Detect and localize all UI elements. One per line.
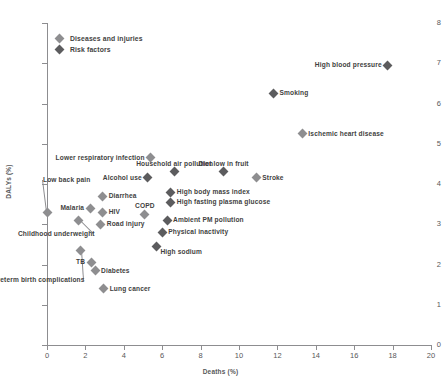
data-point-label: High fasting plasma glucose (177, 198, 270, 206)
data-point-label: Childhood underweight (18, 230, 95, 238)
data-point-marker[interactable] (170, 167, 180, 177)
x-tick (354, 345, 355, 350)
x-tick-label: 12 (264, 352, 290, 360)
data-point-marker[interactable] (269, 88, 279, 98)
x-tick (277, 345, 278, 350)
data-point-label: Diet low in fruit (199, 160, 249, 168)
y-tick-label: 8 (405, 19, 441, 27)
data-point-label: High sodium (160, 248, 202, 256)
legend-label: Risk factors (70, 46, 111, 53)
y-tick (42, 23, 47, 24)
data-point-label: HIV (109, 208, 120, 216)
legend-label: Diseases and injuries (70, 35, 143, 42)
chart-legend: Diseases and injuriesRisk factors (56, 33, 143, 55)
data-point-marker[interactable] (42, 207, 52, 217)
data-point-label: Preterm birth complications (0, 276, 85, 284)
y-axis-title: DALYs (%) (5, 152, 12, 212)
x-tick (431, 345, 432, 350)
data-point-marker[interactable] (166, 187, 176, 197)
legend-item[interactable]: Diseases and injuries (56, 33, 143, 44)
data-point-marker[interactable] (98, 191, 108, 201)
data-point-marker[interactable] (383, 60, 393, 70)
y-tick (42, 224, 47, 225)
x-tick (201, 345, 202, 350)
data-point-label: Alcohol use (103, 174, 142, 182)
data-point-marker[interactable] (251, 173, 261, 183)
data-point-marker[interactable] (166, 197, 176, 207)
y-tick-label: 0 (405, 341, 441, 349)
x-tick-label: 20 (418, 352, 444, 360)
data-point-label: Diabetes (101, 267, 130, 275)
data-point-marker[interactable] (99, 284, 109, 294)
y-tick-label: 2 (405, 261, 441, 269)
data-point-label: Physical inactivity (168, 228, 228, 236)
legend-marker-icon (55, 34, 65, 44)
data-point-label: TB (76, 258, 85, 266)
x-tick-label: 2 (72, 352, 98, 360)
data-point-marker[interactable] (98, 207, 108, 217)
x-tick (393, 345, 394, 350)
data-point-label: Low back pain (43, 176, 90, 184)
data-point-marker[interactable] (140, 209, 150, 219)
data-point-marker[interactable] (143, 173, 153, 183)
legend-marker-icon (55, 45, 65, 55)
data-point-marker[interactable] (85, 203, 95, 213)
y-tick-label: 7 (405, 59, 441, 67)
data-point-label: Diarrhea (109, 192, 137, 200)
y-tick-label: 5 (405, 140, 441, 148)
x-tick-label: 10 (226, 352, 252, 360)
x-tick (85, 345, 86, 350)
x-tick-label: 0 (34, 352, 60, 360)
data-point-label: Stroke (262, 174, 283, 182)
y-tick (42, 265, 47, 266)
data-point-label: High blood pressure (315, 61, 382, 69)
data-point-marker[interactable] (297, 129, 307, 139)
y-tick-label: 3 (405, 220, 441, 228)
data-point-label: Ambient PM pollution (173, 216, 244, 224)
x-tick (316, 345, 317, 350)
x-tick-label: 14 (303, 352, 329, 360)
x-tick (162, 345, 163, 350)
data-point-marker[interactable] (96, 219, 106, 229)
x-tick-label: 4 (111, 352, 137, 360)
legend-item[interactable]: Risk factors (56, 44, 143, 55)
data-point-marker[interactable] (157, 227, 167, 237)
data-point-label: Road injury (107, 220, 145, 228)
data-point-marker[interactable] (162, 215, 172, 225)
x-tick-label: 18 (380, 352, 406, 360)
y-tick (42, 305, 47, 306)
y-tick (42, 104, 47, 105)
y-tick-label: 4 (405, 180, 441, 188)
y-tick-label: 6 (405, 100, 441, 108)
data-point-label: High body mass index (177, 188, 250, 196)
data-point-label: Malaria (60, 204, 84, 212)
x-axis-title: Deaths (%) (0, 368, 441, 375)
x-tick-label: 16 (341, 352, 367, 360)
x-tick-label: 8 (188, 352, 214, 360)
x-tick (239, 345, 240, 350)
data-point-label: Lung cancer (110, 285, 151, 293)
y-tick (42, 63, 47, 64)
x-tick (124, 345, 125, 350)
data-point-label: Smoking (280, 89, 309, 97)
data-point-label: Ischemic heart disease (308, 130, 384, 138)
data-point-label: COPD (135, 202, 155, 210)
y-tick (42, 144, 47, 145)
data-point-marker[interactable] (219, 167, 229, 177)
data-point-label: Lower respiratory infection (56, 154, 145, 162)
x-tick (47, 345, 48, 350)
y-tick-label: 1 (405, 301, 441, 309)
x-tick-label: 6 (149, 352, 175, 360)
